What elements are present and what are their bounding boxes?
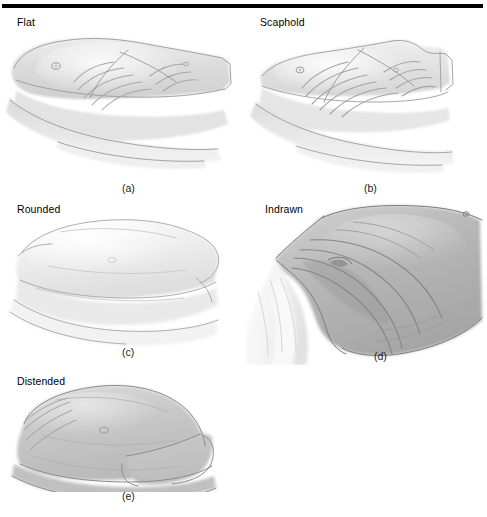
panel-d-illustration xyxy=(244,200,487,365)
panel-c-illustration xyxy=(0,208,243,348)
panel-d-caption: (d) xyxy=(374,350,387,362)
figure-panel-b: Scaphold xyxy=(244,12,487,202)
panel-c-caption: (c) xyxy=(122,346,134,358)
panel-b-caption: (b) xyxy=(364,182,377,194)
figure-panel-e: Distended xyxy=(0,372,243,517)
panel-e-caption: (e) xyxy=(122,490,135,502)
figure-panel-c: Rounded xyxy=(0,200,243,372)
panel-a-illustration xyxy=(0,20,243,175)
panel-a-caption: (a) xyxy=(122,182,135,194)
header-rule xyxy=(2,4,483,8)
panel-b-illustration xyxy=(244,22,487,177)
figure-panel-d: Indrawn xyxy=(244,200,487,372)
panel-e-illustration xyxy=(0,380,243,492)
figure-panel-a: Flat xyxy=(0,12,243,202)
